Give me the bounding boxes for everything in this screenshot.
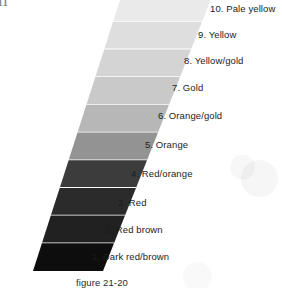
band-label-7: 7. Gold (172, 82, 203, 93)
band-label-8: 8. Yellow/gold (184, 55, 244, 66)
wedge-band-10 (113, 0, 213, 22)
band-label-10: 10. Pale yellow (210, 3, 275, 14)
band-label-9: 9. Yellow (198, 29, 236, 40)
band-label-5: 5. Orange (145, 139, 188, 150)
band-label-1: 1. Dark red/brown (92, 251, 169, 262)
wedge-band-6 (78, 105, 170, 133)
band-label-4: 4. Red/orange (131, 168, 193, 179)
figure-container: h 10. Pale yellow9. Yellow8. Yellow/gold… (0, 0, 282, 288)
figure-caption: figure 21-20 (76, 277, 128, 288)
wedge-band-7 (86, 77, 180, 105)
band-label-3: 3. Red (118, 197, 147, 208)
band-label-6: 6. Orange/gold (158, 110, 222, 121)
wedge-band-8 (95, 49, 191, 77)
grayscale-wedge-chart (0, 0, 282, 288)
wedge-band-9 (104, 22, 202, 50)
band-label-2: 2. Red brown (105, 224, 163, 235)
